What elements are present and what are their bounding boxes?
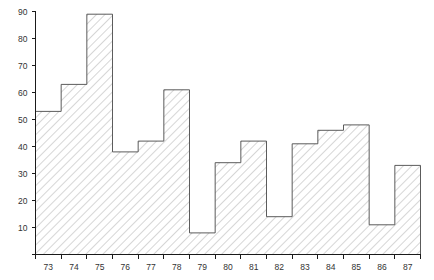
x-tick-label-87: 87 bbox=[403, 262, 413, 272]
x-tick-label-83: 83 bbox=[300, 262, 310, 272]
x-tick-label-85: 85 bbox=[352, 262, 362, 272]
x-tick-label-78: 78 bbox=[172, 262, 182, 272]
x-axis-ticks: 737475767778798081828384858687 bbox=[36, 255, 421, 272]
y-tick-label-60: 60 bbox=[18, 88, 28, 98]
x-tick-label-75: 75 bbox=[95, 262, 105, 272]
bar-79[interactable]: 79: 8 bbox=[190, 233, 216, 255]
bar-76[interactable]: 76: 38 bbox=[113, 152, 139, 255]
bar-84[interactable]: 84: 46 bbox=[318, 130, 344, 254]
x-tick-label-74: 74 bbox=[69, 262, 79, 272]
bar-82[interactable]: 82: 14 bbox=[267, 217, 293, 255]
x-tick-label-80: 80 bbox=[223, 262, 233, 272]
y-axis-ticks: 102030405060708090 bbox=[18, 7, 35, 255]
y-tick-label-20: 20 bbox=[18, 196, 28, 206]
y-tick-label-70: 70 bbox=[18, 61, 28, 71]
x-tick-label-82: 82 bbox=[275, 262, 285, 272]
x-tick-label-86: 86 bbox=[377, 262, 387, 272]
bar-74[interactable]: 74: 63 bbox=[61, 84, 87, 254]
bar-83[interactable]: 83: 41 bbox=[292, 144, 318, 255]
x-tick-label-79: 79 bbox=[198, 262, 208, 272]
chart-canvas: 73: 5374: 6375: 8976: 3877: 4278: 6179: … bbox=[0, 0, 434, 280]
y-tick-label-80: 80 bbox=[18, 34, 28, 44]
y-tick-label-40: 40 bbox=[18, 142, 28, 152]
bar-87[interactable]: 87: 33 bbox=[395, 165, 421, 254]
y-tick-label-90: 90 bbox=[18, 7, 28, 17]
y-tick-label-30: 30 bbox=[18, 169, 28, 179]
bar-75[interactable]: 75: 89 bbox=[87, 14, 113, 254]
bars-group: 73: 5374: 6375: 8976: 3877: 4278: 6179: … bbox=[36, 14, 421, 254]
x-tick-label-76: 76 bbox=[121, 262, 131, 272]
y-tick-label-50: 50 bbox=[18, 115, 28, 125]
bar-85[interactable]: 85: 48 bbox=[344, 125, 370, 255]
x-tick-label-77: 77 bbox=[146, 262, 156, 272]
bar-73[interactable]: 73: 53 bbox=[36, 111, 62, 254]
x-tick-label-81: 81 bbox=[249, 262, 259, 272]
bar-78[interactable]: 78: 61 bbox=[164, 90, 190, 255]
x-tick-label-84: 84 bbox=[326, 262, 336, 272]
histogram-chart: 73: 5374: 6375: 8976: 3877: 4278: 6179: … bbox=[0, 0, 434, 280]
bar-77[interactable]: 77: 42 bbox=[138, 141, 164, 254]
x-tick-label-73: 73 bbox=[44, 262, 54, 272]
bar-80[interactable]: 80: 34 bbox=[215, 163, 241, 255]
bar-81[interactable]: 81: 42 bbox=[241, 141, 267, 254]
bar-86[interactable]: 86: 11 bbox=[369, 225, 395, 255]
y-tick-label-10: 10 bbox=[18, 223, 28, 233]
